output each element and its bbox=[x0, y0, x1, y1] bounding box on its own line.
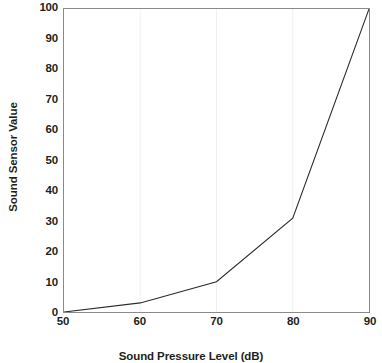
x-axis-tick-label: 90 bbox=[350, 316, 382, 328]
vertical-gridlines bbox=[140, 9, 293, 312]
plot-area bbox=[63, 8, 370, 313]
y-axis-tick-labels: 0102030405060708090100 bbox=[28, 0, 58, 363]
x-axis-tick-label: 60 bbox=[120, 316, 160, 328]
y-axis-tick-label: 30 bbox=[30, 216, 58, 228]
x-axis-tick-labels: 5060708090 bbox=[0, 316, 382, 334]
y-axis-tick-label: 60 bbox=[30, 124, 58, 136]
y-axis-tick-label: 20 bbox=[30, 246, 58, 258]
x-axis-tick-label: 80 bbox=[273, 316, 313, 328]
y-axis-tick-label: 90 bbox=[30, 33, 58, 45]
y-axis-tick-label: 80 bbox=[30, 63, 58, 75]
y-axis-tick-label: 50 bbox=[30, 155, 58, 167]
x-axis-tick-label: 50 bbox=[43, 316, 83, 328]
x-axis-tick-label: 70 bbox=[197, 316, 237, 328]
chart-container: Sound Sensor Value 010203040506070809010… bbox=[0, 0, 382, 363]
x-axis-title: Sound Pressure Level (dB) bbox=[0, 351, 382, 363]
plot-svg bbox=[64, 9, 369, 312]
y-axis-tick-label: 70 bbox=[30, 94, 58, 106]
y-axis-title: Sound Sensor Value bbox=[0, 0, 26, 313]
y-axis-title-text: Sound Sensor Value bbox=[7, 102, 19, 211]
y-axis-tick-label: 40 bbox=[30, 185, 58, 197]
y-axis-tick-label: 100 bbox=[30, 2, 58, 14]
y-axis-tick-label: 10 bbox=[30, 277, 58, 289]
